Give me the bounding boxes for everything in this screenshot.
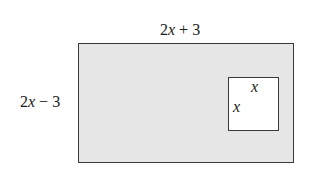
outer-width-label: 2x + 3 [160,21,200,39]
inner-square-left-side-label: x [233,99,240,115]
inner-square-top-side-label: x [251,79,258,95]
outer-height-label: 2x − 3 [20,93,60,111]
